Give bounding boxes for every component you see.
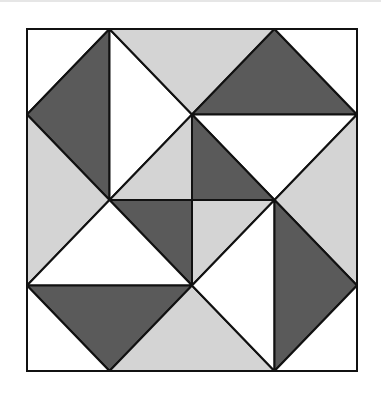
triangle-pieces bbox=[27, 29, 357, 371]
quilt-block-diagram bbox=[0, 0, 381, 405]
